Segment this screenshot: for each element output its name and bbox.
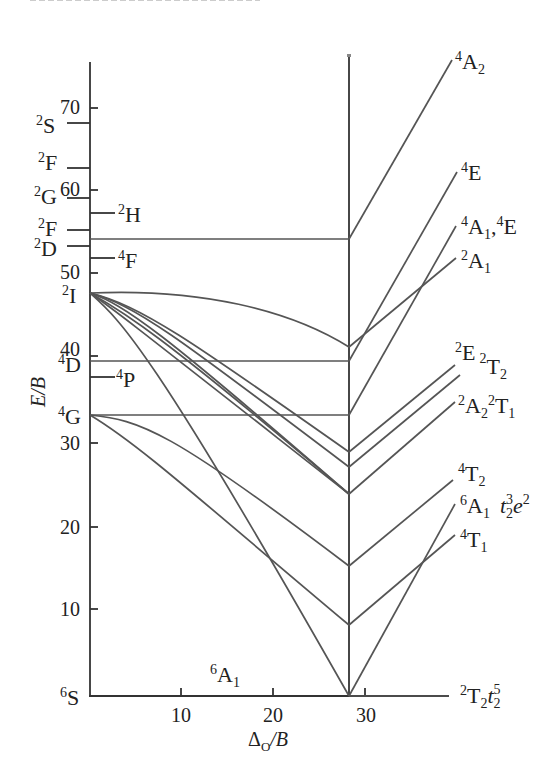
y-tick-50: 50 [60, 261, 80, 283]
y-tick-70: 70 [60, 96, 80, 118]
term-2D: 2D [34, 236, 57, 261]
x-axis-title: ΔO/B [248, 728, 288, 754]
y-tick-60: 60 [60, 178, 80, 200]
term-2S: 2S [36, 113, 55, 138]
y-tick-20: 20 [60, 516, 80, 538]
label-2A2-2T1: 2A22T1 [458, 393, 515, 421]
y-tick-10: 10 [60, 598, 80, 620]
crossover-top-mark [347, 54, 351, 57]
label-6A1-t2e: 6A1t32e2 [460, 492, 530, 521]
label-4A2: 4A2 [455, 49, 485, 77]
x-tick-30: 30 [356, 704, 376, 726]
y-tick-30: 30 [60, 432, 80, 454]
label-2A1: 2A1 [461, 248, 491, 276]
label-2E-2T2: 2E2T2 [455, 340, 507, 382]
term-6A1-ground: 6A1 [210, 662, 240, 690]
term-4F: 4F [118, 248, 137, 273]
term-4D: 4D [58, 352, 81, 377]
label-4E: 4E [461, 160, 481, 185]
term-2G: 2G [34, 184, 57, 209]
label-4T2: 4T2 [458, 461, 485, 489]
label-4A1-4E: 4A1,4E [461, 214, 517, 242]
y-axis-title: E/B [27, 377, 49, 408]
right-lines [349, 60, 460, 696]
x-tick-20: 20 [263, 704, 283, 726]
y-ticks [90, 108, 98, 609]
term-4P: 4P [116, 367, 135, 392]
term-4G: 4G [58, 404, 81, 429]
curves-from-2I [90, 292, 349, 696]
x-tick-10: 10 [171, 704, 191, 726]
tanabe-sugano-diagram: 10 20 30 40 50 60 70 10 20 30 ΔO/B E/B 2… [0, 0, 560, 778]
term-2H: 2H [118, 202, 141, 227]
term-6S: 6S [60, 685, 79, 710]
label-4T1: 4T1 [460, 527, 487, 555]
label-2T2-t25: 2T2t52 [460, 682, 501, 711]
curves-from-4G [90, 415, 349, 625]
term-2I: 2I [62, 283, 76, 308]
term-2F-upper: 2F [38, 150, 57, 175]
x-ticks [181, 688, 365, 696]
